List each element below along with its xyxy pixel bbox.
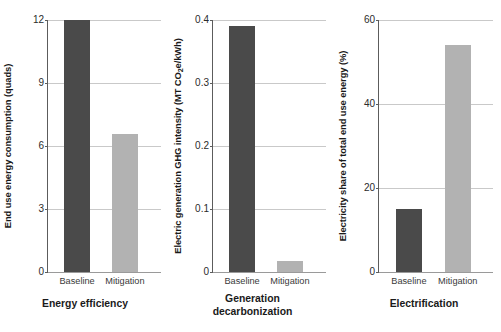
figure-three-panel-bar-charts: End use energy consumption (quads) 03691… [0,0,501,332]
panel-generation-decarbonization: Electric generation GHG intensity (MT CO… [170,0,335,332]
y-tick-label: 0 [369,267,375,277]
bar-mitigation[interactable] [445,45,471,272]
y-tick-mark [376,188,379,189]
plot-area-panel-2: 00.10.20.30.4BaselineMitigation [212,20,326,273]
x-tick-label-baseline: Baseline [224,277,259,286]
y-tick-mark [376,104,379,105]
bar-baseline[interactable] [229,26,255,272]
y-tick-label: 3 [38,204,44,214]
bar-mitigation[interactable] [277,261,303,272]
y-tick-label: 0.4 [195,15,209,25]
bar-baseline[interactable] [396,209,422,272]
gridline [213,20,326,21]
y-tick-mark [376,272,379,273]
y-axis-label-panel-3: Electricity share of total end use energ… [335,20,351,272]
y-tick-label: 0.1 [195,204,209,214]
x-tick-label-mitigation: Mitigation [438,277,477,286]
y-tick-label: 0 [38,267,44,277]
y-axis-label-panel-2-prefix: Electric generation GHG intensity (MT CO [172,72,183,253]
panel-electrification: Electricity share of total end use energ… [335,0,501,332]
y-axis-label-panel-2: Electric generation GHG intensity (MT CO… [170,20,186,272]
y-tick-label: 0.2 [195,141,209,151]
y-tick-mark [210,209,213,210]
y-tick-label: 0 [203,267,209,277]
panel-title-panel-1: Energy efficiency [0,297,170,310]
panel-energy-efficiency: End use energy consumption (quads) 03691… [0,0,170,332]
panel-title-line1: Energy efficiency [42,298,128,309]
y-tick-mark [210,146,213,147]
y-tick-label: 12 [33,15,44,25]
panel-title-line1: Electrification [390,298,459,309]
gridline [379,104,493,105]
y-axis-label-panel-1: End use energy consumption (quads) [0,20,16,272]
bar-baseline[interactable] [64,20,90,272]
y-axis-label-panel-2-subscript: 2 [176,68,185,72]
y-tick-mark [45,146,48,147]
y-axis-label-panel-2-suffix: e/kWh) [172,38,183,68]
y-tick-mark [376,20,379,21]
y-tick-mark [210,272,213,273]
panel-title-panel-3: Electrification [335,297,501,310]
panel-title-panel-2: Generation decarbonization [170,292,335,318]
y-tick-label: 9 [38,78,44,88]
y-tick-label: 20 [364,183,375,193]
y-tick-mark [210,20,213,21]
y-tick-mark [210,83,213,84]
bar-mitigation[interactable] [112,134,138,272]
gridline [379,20,493,21]
gridline [379,188,493,189]
plot-area-panel-1: 036912BaselineMitigation [47,20,161,273]
x-tick-label-mitigation: Mitigation [105,277,144,286]
x-tick-label-baseline: Baseline [59,277,94,286]
y-tick-label: 0.3 [195,78,209,88]
y-tick-label: 40 [364,99,375,109]
y-tick-mark [45,272,48,273]
y-tick-mark [45,83,48,84]
y-tick-mark [45,209,48,210]
y-tick-label: 60 [364,15,375,25]
plot-area-panel-3: 0204060BaselineMitigation [378,20,493,273]
x-tick-label-mitigation: Mitigation [270,277,309,286]
panel-title-line2: decarbonization [170,305,335,318]
panel-title-line1: Generation [225,293,280,304]
y-tick-mark [45,20,48,21]
y-tick-label: 6 [38,141,44,151]
x-tick-label-baseline: Baseline [391,277,426,286]
